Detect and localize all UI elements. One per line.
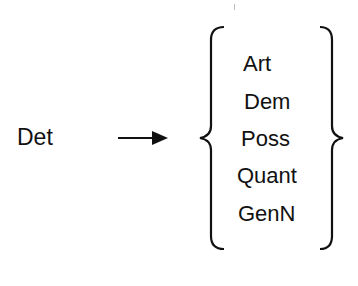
- option-genn: GenN: [238, 202, 295, 226]
- braces-group: [0, 0, 358, 286]
- option-dem: Dem: [244, 90, 290, 114]
- left-brace-icon: [200, 27, 224, 249]
- option-poss: Poss: [241, 127, 290, 151]
- right-brace-icon: [320, 27, 343, 249]
- option-art: Art: [243, 52, 271, 76]
- option-quant: Quant: [237, 164, 297, 188]
